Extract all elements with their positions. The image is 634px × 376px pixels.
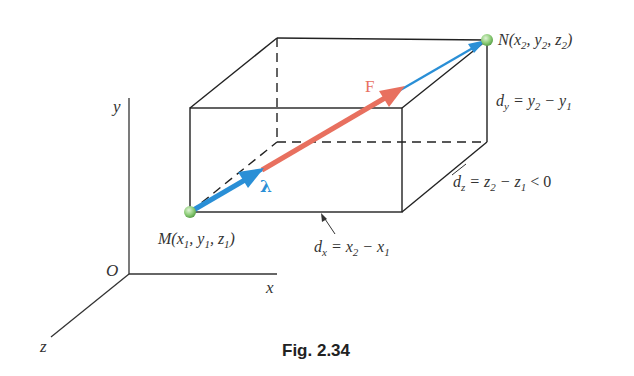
origin-label: O — [106, 261, 118, 280]
y-axis-label: y — [111, 97, 121, 116]
dz-label: dz = z2 − z1 < 0 — [453, 173, 551, 193]
vectors — [190, 40, 486, 212]
unit-vector-label: λ — [260, 176, 272, 196]
force-vector-shaft — [262, 95, 390, 170]
force-arrowhead-icon — [379, 86, 405, 107]
point-m — [184, 206, 196, 218]
point-m-label: M(x1, y1, z1) — [157, 230, 235, 250]
box-edge — [277, 38, 487, 40]
figure-caption: Fig. 2.34 — [282, 341, 351, 360]
x-axis-label: x — [265, 278, 274, 297]
point-n — [481, 34, 493, 46]
dx-label: dx = x2 − x1 — [314, 238, 390, 258]
dy-label: dy = y2 − y1 — [496, 92, 572, 112]
force-label: F — [365, 77, 374, 96]
z-axis — [51, 274, 129, 337]
vector-diagram: y x z O F λ M(x1, y1, z1) N( — [0, 0, 634, 376]
box-front-face — [190, 108, 402, 212]
z-axis-label: z — [39, 337, 47, 356]
point-n-label: N(x2, y2, z2) — [497, 31, 572, 51]
coordinate-axes — [51, 98, 277, 337]
unit-vector-shaft — [190, 177, 250, 212]
box-edge — [190, 38, 277, 108]
